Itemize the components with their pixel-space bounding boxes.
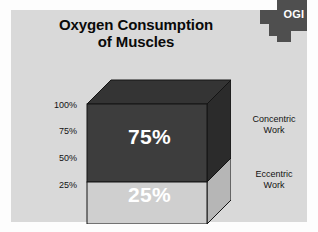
- y-tick-75: 75%: [41, 126, 77, 136]
- bar-value-eccentric: 25%: [87, 184, 212, 206]
- y-tick-50: 50%: [41, 153, 77, 163]
- y-tick-25: 25%: [41, 180, 77, 190]
- legend-label-eccentric: Eccentric Work: [238, 169, 310, 191]
- legend-label-concentric-line-1: Concentric: [238, 114, 310, 125]
- legend-label-eccentric-line-2: Work: [238, 180, 310, 191]
- legend-label-concentric-line-2: Work: [238, 125, 310, 136]
- y-tick-100: 100%: [41, 100, 77, 110]
- slide-frame: Oxygen Consumption of Muscles OGI 100% 7…: [0, 0, 318, 232]
- legend-label-eccentric-line-1: Eccentric: [238, 169, 310, 180]
- oxygen-consumption-chart: 100% 75% 50% 25% 75% 25% Co: [11, 10, 307, 222]
- legend-label-concentric: Concentric Work: [238, 114, 310, 136]
- bar-top-face: [87, 80, 231, 104]
- bar-value-concentric: 75%: [87, 126, 212, 148]
- stacked-bar-3d: 75% 25%: [81, 78, 231, 224]
- y-axis: 100% 75% 50% 25%: [33, 10, 77, 222]
